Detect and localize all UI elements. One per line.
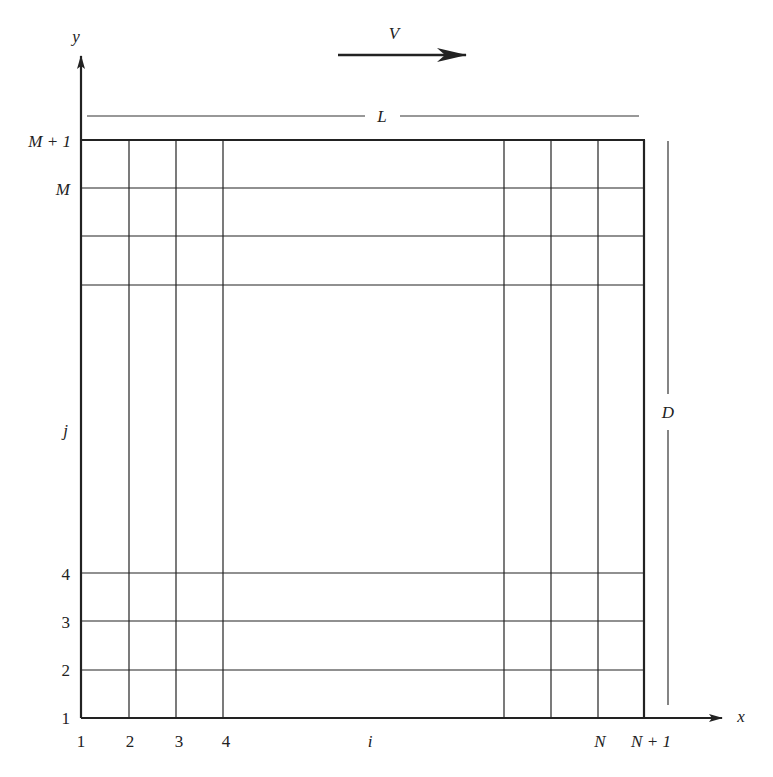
x-tick-label: 3	[175, 732, 184, 751]
domain-boundary	[81, 140, 645, 719]
x-tick-label: 1	[77, 732, 86, 751]
x-tick-labels: 1 2 3 4 i N N + 1	[77, 732, 671, 751]
length-dimension: L	[87, 107, 639, 126]
y-tick-label: 3	[62, 613, 71, 632]
y-tick-label: 4	[62, 565, 71, 584]
x-tick-label: 4	[222, 732, 231, 751]
x-tick-label: i	[368, 732, 373, 751]
x-axis-label: x	[736, 707, 745, 726]
grid-lines	[81, 140, 644, 718]
velocity-indicator: V	[338, 24, 466, 55]
y-tick-label: M	[55, 180, 71, 199]
y-tick-label: M + 1	[27, 132, 71, 151]
height-dimension: D	[661, 141, 675, 705]
y-tick-label: j	[61, 421, 68, 440]
grid-diagram: y x V L D 1	[0, 0, 773, 777]
height-label: D	[661, 403, 675, 422]
x-tick-label: N	[593, 732, 607, 751]
x-tick-label: 2	[126, 732, 135, 751]
y-tick-label: 1	[62, 709, 71, 728]
y-axis-label: y	[70, 27, 80, 46]
y-tick-label: 2	[62, 661, 71, 680]
velocity-label: V	[389, 24, 402, 43]
x-tick-label: N + 1	[630, 732, 671, 751]
length-label: L	[376, 107, 386, 126]
y-tick-labels: 1 2 3 4 j M M + 1	[27, 132, 71, 728]
